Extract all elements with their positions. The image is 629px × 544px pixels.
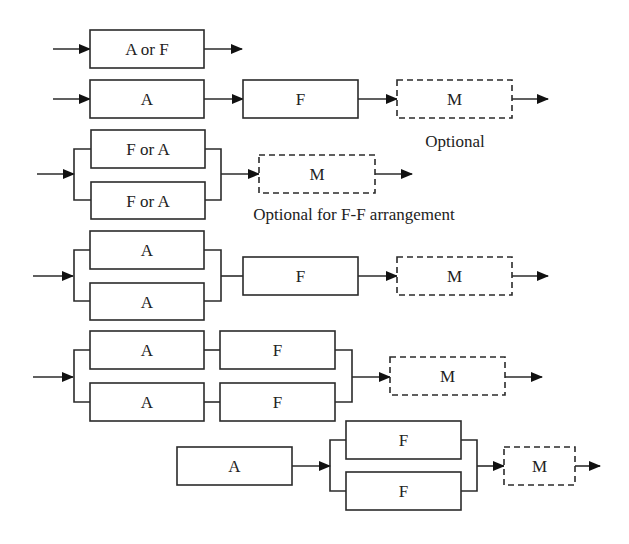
box-label: F bbox=[399, 482, 408, 501]
connector-line bbox=[335, 350, 352, 402]
box-label: F or A bbox=[126, 192, 170, 211]
unit-box-r4-a-top: A bbox=[90, 231, 204, 269]
connector-line bbox=[74, 350, 90, 402]
unit-box-r6-a: A bbox=[177, 447, 292, 485]
box-label: M bbox=[440, 367, 455, 386]
unit-box-r5-a-bottom: A bbox=[90, 383, 204, 421]
box-label: F bbox=[273, 393, 282, 412]
connector-line bbox=[74, 149, 91, 200]
box-label: F bbox=[296, 267, 305, 286]
unit-box-r3-f-or-a-top: F or A bbox=[91, 130, 205, 168]
unit-box-r1-a-or-f: A or F bbox=[90, 30, 204, 68]
box-label: M bbox=[309, 165, 324, 184]
process-arrangement-diagram: A or FAFMF or AF or AMAAFMAFAFMAFFM Opti… bbox=[0, 0, 629, 544]
box-label: A bbox=[141, 393, 154, 412]
unit-box-r2-m: M bbox=[397, 80, 512, 118]
unit-box-r6-f-top: F bbox=[346, 421, 461, 459]
box-label: F bbox=[296, 90, 305, 109]
unit-box-r5-m: M bbox=[390, 357, 505, 395]
unit-box-r3-m: M bbox=[259, 155, 375, 193]
unit-box-layer: A or FAFMF or AF or AMAAFMAFAFMAFFM bbox=[90, 30, 575, 510]
box-label: F bbox=[399, 431, 408, 450]
box-label: A bbox=[141, 90, 154, 109]
unit-box-r5-f-top: F bbox=[220, 331, 335, 369]
unit-box-r3-f-or-a-bottom: F or A bbox=[91, 182, 205, 219]
box-label: A bbox=[141, 241, 154, 260]
annotation-note: Optional for F-F arrangement bbox=[253, 205, 455, 224]
unit-box-r6-f-bottom: F bbox=[346, 472, 461, 510]
box-label: A or F bbox=[125, 40, 168, 59]
diagram-svg: A or FAFMF or AF or AMAAFMAFAFMAFFM Opti… bbox=[0, 0, 629, 544]
unit-box-r5-a-top: A bbox=[90, 331, 204, 369]
unit-box-r6-m: M bbox=[504, 447, 575, 485]
connector-line bbox=[74, 250, 90, 301]
unit-box-r2-f: F bbox=[243, 80, 358, 118]
box-label: F bbox=[273, 341, 282, 360]
box-label: M bbox=[447, 267, 462, 286]
annotation-note: Optional bbox=[425, 132, 485, 151]
unit-box-r4-m: M bbox=[397, 257, 512, 295]
box-label: M bbox=[532, 457, 547, 476]
box-label: F or A bbox=[126, 140, 170, 159]
unit-box-r5-f-bottom: F bbox=[220, 383, 335, 421]
unit-box-r4-f: F bbox=[243, 257, 358, 295]
unit-box-r4-a-bottom: A bbox=[90, 283, 204, 320]
box-label: A bbox=[228, 457, 241, 476]
unit-box-r2-a: A bbox=[90, 80, 204, 118]
box-label: M bbox=[447, 90, 462, 109]
connector-line bbox=[461, 440, 477, 491]
box-label: A bbox=[141, 341, 154, 360]
connector-line bbox=[204, 250, 221, 301]
connector-line bbox=[205, 149, 221, 200]
connector-line bbox=[330, 440, 346, 491]
box-label: A bbox=[141, 293, 154, 312]
